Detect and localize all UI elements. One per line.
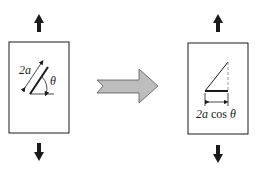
crack-length-label: 2a <box>19 63 31 77</box>
tension-arrow-up-icon <box>34 14 44 32</box>
right-specimen: 2a cos θ <box>188 14 248 163</box>
tension-arrow-up-icon <box>213 14 223 32</box>
left-specimen: 2a θ <box>9 14 69 161</box>
projected-length-label: 2a cos θ <box>196 107 236 121</box>
inclined-crack <box>205 62 228 91</box>
inclined-crack <box>30 67 48 94</box>
angle-arc <box>42 77 47 94</box>
transform-arrow-icon <box>97 69 158 103</box>
plate <box>9 42 69 133</box>
tension-arrow-down-icon <box>34 143 44 161</box>
tension-arrow-down-icon <box>213 145 223 163</box>
angle-label: θ <box>50 74 56 88</box>
crack-projection-diagram: 2a θ 2a cos θ <box>0 0 256 171</box>
